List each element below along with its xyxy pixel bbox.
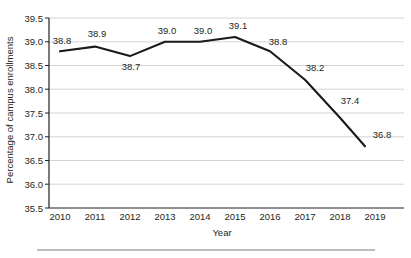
point-label: 38.9: [88, 28, 107, 39]
x-tick-label: 2014: [189, 211, 210, 222]
chart-figure: Percentage of campus enrollments: [0, 0, 411, 258]
line-chart-svg: Percentage of campus enrollments: [0, 0, 411, 258]
point-label: 38.8: [269, 36, 288, 47]
x-axis-title: Year: [212, 227, 231, 238]
y-tick-label: 36.0: [25, 179, 44, 190]
y-axis-title: Percentage of campus enrollments: [4, 36, 15, 183]
x-tick-label: 2016: [259, 211, 280, 222]
y-tick-label: 37.5: [25, 108, 44, 119]
y-tick-label: 38.5: [25, 60, 44, 71]
x-tick-label: 2015: [224, 211, 245, 222]
x-tick-label: 2018: [329, 211, 350, 222]
point-label: 39.0: [194, 25, 213, 36]
y-tick-label: 35.5: [25, 203, 44, 214]
y-tick-label: 36.5: [25, 155, 44, 166]
point-label: 39.1: [229, 20, 248, 31]
point-label: 36.8: [373, 129, 392, 140]
x-tick-label: 2019: [364, 211, 385, 222]
point-label: 37.4: [341, 95, 360, 106]
y-tick-label: 38.0: [25, 84, 44, 95]
y-tick-label: 39.5: [25, 13, 44, 24]
point-label: 38.2: [306, 62, 325, 73]
x-tick-label: 2010: [49, 211, 70, 222]
point-label: 39.0: [158, 25, 177, 36]
x-tick-label: 2012: [119, 211, 140, 222]
y-tick-label: 39.0: [25, 36, 44, 47]
point-label: 38.8: [53, 35, 72, 46]
point-label: 38.7: [122, 61, 141, 72]
x-tick-label: 2013: [154, 211, 175, 222]
y-tick-label: 37.0: [25, 131, 44, 142]
y-tick-labels: 39.5 39.0 38.5 38.0 37.5 37.0 36.5 36.0 …: [25, 13, 44, 214]
x-tick-label: 2017: [294, 211, 315, 222]
x-tick-label: 2011: [85, 211, 105, 222]
